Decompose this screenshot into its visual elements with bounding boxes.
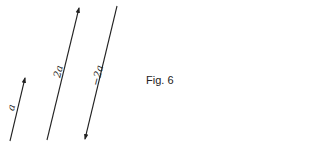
figure-caption: Fig. 6 bbox=[146, 74, 174, 86]
